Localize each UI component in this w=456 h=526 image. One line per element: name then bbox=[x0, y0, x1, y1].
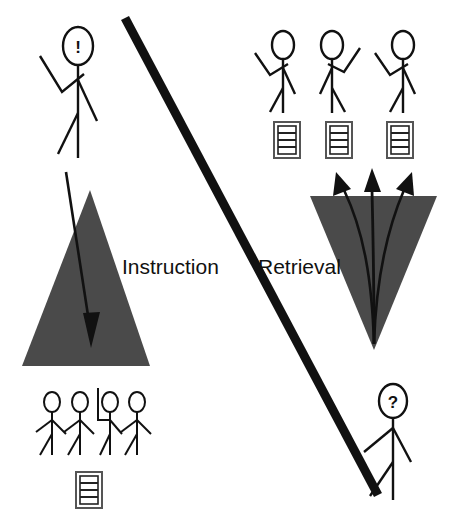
responder-head-3-icon bbox=[392, 31, 414, 59]
document-icon-3 bbox=[387, 122, 413, 158]
audience-head-4-icon bbox=[129, 392, 145, 412]
retrieval-label: Retrieval bbox=[258, 255, 341, 278]
audience-head-3-icon bbox=[102, 392, 118, 412]
document-icon-2 bbox=[326, 122, 352, 158]
question-glyph: ? bbox=[388, 393, 398, 412]
responder-head-2-icon bbox=[321, 31, 343, 59]
exclamation-glyph: ! bbox=[75, 38, 81, 57]
audience-head-2-icon bbox=[72, 392, 88, 412]
audience-head-1-icon bbox=[44, 392, 60, 412]
document-icon-1 bbox=[274, 122, 300, 158]
instruction-label: Instruction bbox=[122, 255, 219, 278]
diagram-canvas: ! bbox=[0, 0, 456, 526]
retrieved-document-icons bbox=[274, 122, 413, 158]
diagram-root: ! bbox=[0, 0, 456, 526]
responder-head-1-icon bbox=[272, 31, 294, 59]
document-icon-shared bbox=[76, 472, 102, 508]
